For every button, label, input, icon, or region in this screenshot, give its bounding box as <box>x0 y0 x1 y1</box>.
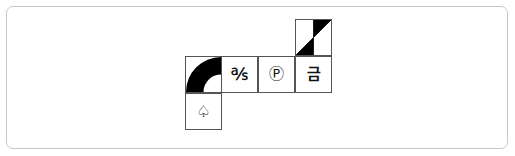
quarter-arc-icon <box>186 57 221 92</box>
circled-p-symbol: Ⓟ <box>269 67 284 82</box>
aktieselskab-symbol: ℁ <box>231 66 248 83</box>
diagonal-triangles-icon <box>296 20 331 55</box>
tile-korean-geum: 금 <box>295 56 332 93</box>
tile-circled-p: Ⓟ <box>258 56 295 93</box>
tile-aktieselskab: ℁ <box>221 56 258 93</box>
tile-spade: ♤ <box>185 93 222 130</box>
korean-geum-character: 금 <box>307 67 321 82</box>
spade-icon: ♤ <box>196 104 210 120</box>
tile-quarter-arc <box>185 56 222 93</box>
tile-diagonal <box>295 19 332 56</box>
